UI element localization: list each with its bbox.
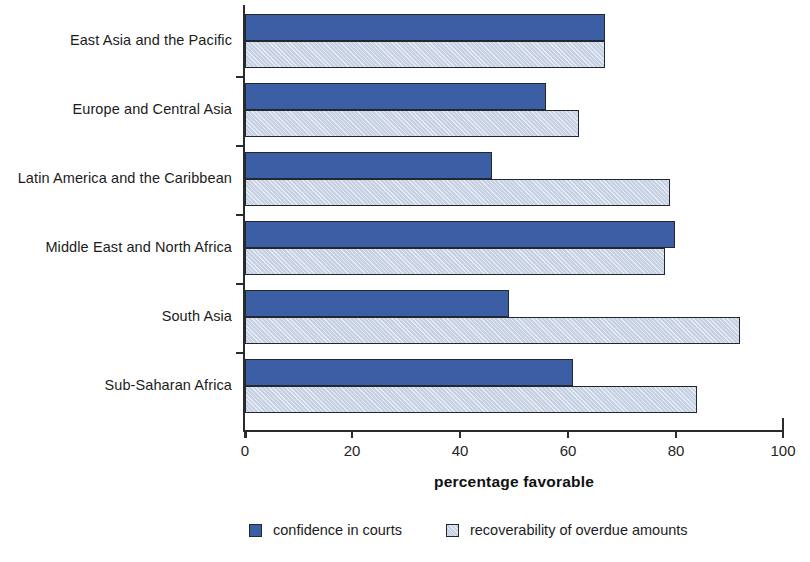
bar-0-4 [245, 290, 509, 317]
bar-0-1 [245, 83, 546, 110]
x-tick-label-40: 40 [452, 442, 469, 459]
legend-item-confidence-in-courts: confidence in courts [249, 522, 402, 538]
x-tick-label-60: 60 [560, 442, 577, 459]
category-label-middle-east-and-north-africa: Middle East and North Africa [0, 239, 232, 255]
x-axis-tick [675, 430, 677, 438]
bar-0-2 [245, 152, 492, 179]
bar-1-2 [245, 179, 670, 206]
x-axis-tick [351, 430, 353, 438]
bar-1-3 [245, 248, 665, 275]
legend-label: confidence in courts [273, 522, 402, 538]
y-axis-tick [236, 145, 244, 147]
y-axis-tick [236, 76, 244, 78]
x-axis-tick [782, 430, 784, 438]
x-axis-tick [459, 430, 461, 438]
bar-0-0 [245, 14, 605, 41]
y-axis-tick [236, 352, 244, 354]
legend-swatch-icon [446, 524, 459, 537]
bar-chart: East Asia and the Pacific Europe and Cen… [0, 0, 810, 562]
x-axis-title: percentage favorable [245, 473, 783, 491]
bar-1-1 [245, 110, 579, 137]
bar-0-5 [245, 359, 573, 386]
x-tick-label-20: 20 [344, 442, 361, 459]
category-label-east-asia-and-the-pacific: East Asia and the Pacific [0, 32, 232, 48]
x-tick-label-100: 100 [770, 442, 795, 459]
plot-area: 0 20 40 60 80 100 [245, 5, 783, 430]
category-label-europe-and-central-asia: Europe and Central Asia [0, 101, 232, 117]
legend: confidence in courts recoverability of o… [245, 522, 783, 538]
legend-label: recoverability of overdue amounts [470, 522, 688, 538]
bar-1-0 [245, 41, 605, 68]
bar-1-5 [245, 386, 697, 413]
category-axis-labels: East Asia and the Pacific Europe and Cen… [0, 0, 232, 425]
x-axis-tick [567, 430, 569, 438]
x-tick-label-80: 80 [668, 442, 685, 459]
y-axis-tick [236, 214, 244, 216]
category-label-south-asia: South Asia [0, 308, 232, 324]
bar-1-4 [245, 317, 740, 344]
legend-swatch-icon [249, 524, 262, 537]
x-axis-line [243, 430, 783, 432]
category-label-latin-america-and-the-caribbean: Latin America and the Caribbean [0, 170, 232, 186]
x-tick-label-0: 0 [241, 442, 249, 459]
bar-0-3 [245, 221, 675, 248]
y-axis-tick [236, 283, 244, 285]
legend-item-recoverability-of-overdue-amounts: recoverability of overdue amounts [446, 522, 688, 538]
x-axis-tick [245, 430, 247, 438]
category-label-sub-saharan-africa: Sub-Saharan Africa [0, 377, 232, 393]
